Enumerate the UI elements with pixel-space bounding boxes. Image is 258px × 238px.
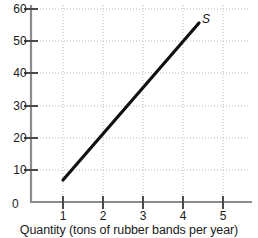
- xtick-label-5: 5: [213, 210, 233, 222]
- ytick-label-10-wrap: 10: [0, 164, 27, 176]
- supply-curve-line: [63, 23, 199, 180]
- vertical-gridlines: [63, 5, 223, 202]
- ytick-label-40-wrap: 40: [0, 67, 27, 79]
- xtick-label-3: 3: [133, 210, 153, 222]
- ytick-label-50-wrap: 50: [0, 35, 27, 47]
- plot-area: 60 50 40 30 20 10 0 1 2 3 4 5 S Quantity…: [0, 0, 258, 238]
- chart-canvas: [0, 0, 258, 238]
- supply-curve-label: S: [202, 13, 210, 25]
- ytick-label-20-wrap: 20: [0, 132, 27, 144]
- ytick-label-60: 60: [3, 3, 27, 15]
- ytick-label-30-wrap: 30: [0, 100, 27, 112]
- ytick-label-40: 40: [3, 67, 27, 79]
- ytick-label-0: 0: [12, 198, 19, 210]
- ytick-label-20: 20: [3, 132, 27, 144]
- ytick-label-60-wrap: 60: [0, 3, 27, 15]
- chart-figure: 60 50 40 30 20 10 0 1 2 3 4 5 S Quantity…: [0, 0, 258, 238]
- xtick-label-2: 2: [93, 210, 113, 222]
- ytick-label-50: 50: [3, 35, 27, 47]
- ytick-label-10: 10: [3, 164, 27, 176]
- xtick-label-4: 4: [173, 210, 193, 222]
- x-axis-title: Quantity (tons of rubber bands per year): [0, 223, 258, 237]
- xtick-label-1: 1: [53, 210, 73, 222]
- ytick-label-30: 30: [3, 100, 27, 112]
